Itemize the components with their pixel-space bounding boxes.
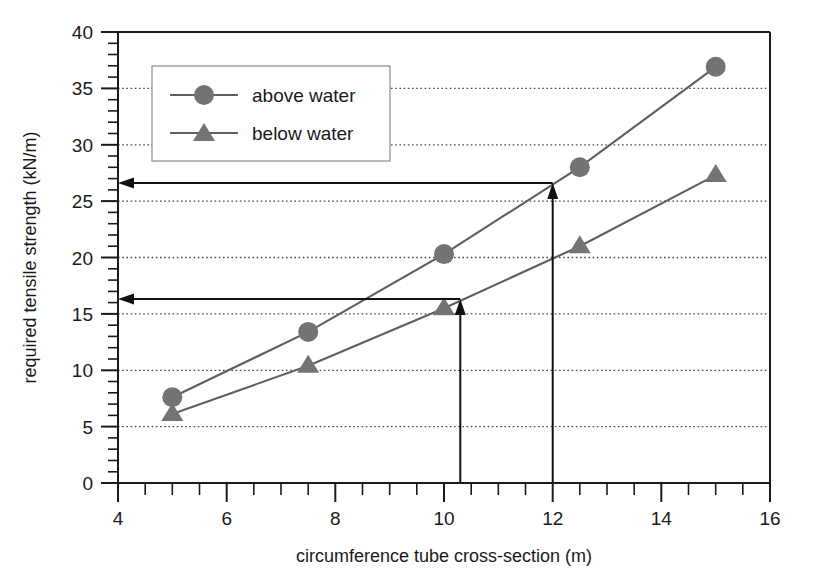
x-tick-label: 8 bbox=[330, 508, 341, 529]
y-tick-label: 20 bbox=[72, 248, 93, 269]
x-tick-label: 10 bbox=[433, 508, 454, 529]
y-tick-label: 15 bbox=[72, 304, 93, 325]
chart-figure: 40 35 30 25 20 15 10 5 0 bbox=[0, 0, 813, 577]
legend-label-above-water: above water bbox=[252, 85, 356, 106]
x-axis-ticks bbox=[118, 483, 770, 502]
x-tick-label: 14 bbox=[651, 508, 673, 529]
y-tick-label: 0 bbox=[82, 473, 93, 494]
y-axis-ticks bbox=[101, 32, 118, 483]
legend-box bbox=[152, 66, 390, 161]
data-point-marker bbox=[706, 57, 726, 77]
x-tick-label: 12 bbox=[542, 508, 563, 529]
y-tick-label: 30 bbox=[72, 135, 93, 156]
x-tick-labels: 4 6 8 10 12 14 16 bbox=[113, 508, 781, 529]
y-tick-label: 35 bbox=[72, 78, 93, 99]
y-tick-label: 25 bbox=[72, 191, 93, 212]
data-point-marker bbox=[434, 244, 454, 264]
x-tick-label: 4 bbox=[113, 508, 124, 529]
circle-marker-icon bbox=[194, 85, 214, 105]
x-tick-label: 16 bbox=[759, 508, 780, 529]
x-tick-label: 6 bbox=[221, 508, 232, 529]
y-tick-label: 10 bbox=[72, 360, 93, 381]
legend-label-below-water: below water bbox=[252, 123, 354, 144]
y-axis-title: required tensile strength (kN/m) bbox=[20, 131, 40, 383]
y-tick-labels: 40 35 30 25 20 15 10 5 0 bbox=[72, 22, 93, 494]
y-tick-label: 5 bbox=[82, 417, 93, 438]
y-tick-label: 40 bbox=[72, 22, 93, 43]
data-point-marker bbox=[570, 157, 590, 177]
legend-item-above-water[interactable]: above water bbox=[170, 85, 356, 106]
chart-svg: 40 35 30 25 20 15 10 5 0 bbox=[0, 0, 813, 577]
x-axis-title: circumference tube cross-section (m) bbox=[296, 546, 592, 566]
data-point-marker bbox=[298, 322, 318, 342]
chart-legend: above water below water bbox=[152, 66, 390, 161]
